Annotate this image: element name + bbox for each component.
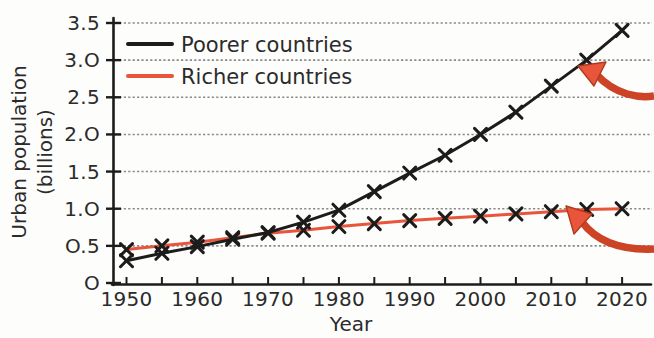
- legend-label-poorer: Poorer countries: [181, 33, 353, 57]
- arrow-to-poorer-line: [596, 74, 654, 97]
- annotation-arrows: [566, 62, 654, 249]
- x-tick-label: 2010: [525, 287, 577, 311]
- urban-population-line-chart: OO.51.O1.52.O2.53.O3.5 19501960197019801…: [0, 0, 654, 338]
- y-axis-title-line1: Urban population: [7, 65, 31, 238]
- data-point-marker: [510, 106, 522, 118]
- x-tick-label: 2020: [596, 287, 648, 311]
- data-point-marker: [404, 167, 416, 179]
- x-axis-title: Year: [329, 312, 373, 336]
- y-tick-label: 3.O: [64, 48, 100, 72]
- data-point-marker: [545, 80, 557, 92]
- y-axis-title-line2: (billions): [33, 109, 57, 195]
- x-tick-label: 1970: [242, 287, 294, 311]
- y-tick-label: 1.5: [67, 160, 100, 184]
- y-tick-label: O.5: [65, 234, 100, 258]
- x-tick-label: 1990: [384, 287, 436, 311]
- data-point-marker: [368, 186, 380, 198]
- x-axis-tick-labels: 19501960197019801990200020102020: [100, 287, 648, 311]
- legend-label-richer: Richer countries: [181, 65, 352, 89]
- y-tick-label: 2.5: [67, 85, 100, 109]
- y-tick-label: 1.O: [64, 197, 100, 221]
- chart-container: OO.51.O1.52.O2.53.O3.5 19501960197019801…: [0, 0, 654, 338]
- y-tick-label: 3.5: [67, 11, 100, 35]
- x-tick-label: 1980: [313, 287, 365, 311]
- data-point-marker: [439, 149, 451, 161]
- x-tick-label: 1950: [100, 287, 152, 311]
- y-tick-label: 2.O: [64, 122, 100, 146]
- axes: [106, 18, 651, 285]
- x-tick-label: 2000: [454, 287, 506, 311]
- y-tick-label: O: [84, 271, 100, 295]
- data-point-marker: [616, 24, 628, 36]
- y-axis-tick-labels: OO.51.O1.52.O2.53.O3.5: [64, 11, 100, 295]
- x-tick-label: 1960: [171, 287, 223, 311]
- legend: Poorer countries Richer countries: [128, 33, 353, 89]
